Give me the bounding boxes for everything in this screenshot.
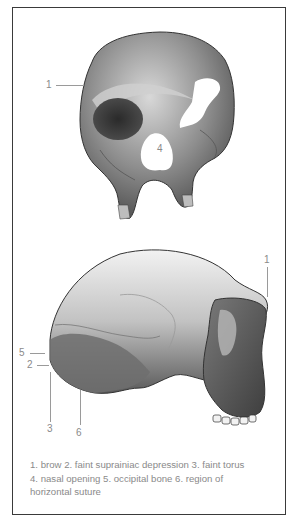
label-leader-line-side-1 <box>267 267 268 297</box>
label-front-nasal-opening: 4 <box>157 144 163 154</box>
caption-line-2: 4. nasal opening 5. occipital bone 6. re… <box>30 472 270 486</box>
label-leader-line-side-2 <box>37 365 49 366</box>
label-side-torus: 3 <box>47 424 53 434</box>
label-side-suprainiac-depression: 2 <box>27 360 33 370</box>
label-side-occipital-bone: 5 <box>19 348 25 358</box>
caption-line-1: 1. brow 2. faint suprainiac depression 3… <box>30 458 270 472</box>
label-leader-line-side-5 <box>30 353 45 354</box>
label-leader-line-side-6 <box>80 390 81 425</box>
figure-caption: 1. brow 2. faint suprainiac depression 3… <box>30 458 270 499</box>
skull-front-view-illustration <box>0 0 298 240</box>
label-leader-line-front-1 <box>56 85 84 86</box>
label-side-horizontal-suture: 6 <box>76 428 82 438</box>
label-side-brow: 1 <box>264 255 270 265</box>
skull-side-view-illustration <box>0 240 298 440</box>
caption-line-3: horizontal suture <box>30 485 270 499</box>
label-leader-line-side-3 <box>50 372 51 422</box>
label-front-brow: 1 <box>46 80 52 90</box>
